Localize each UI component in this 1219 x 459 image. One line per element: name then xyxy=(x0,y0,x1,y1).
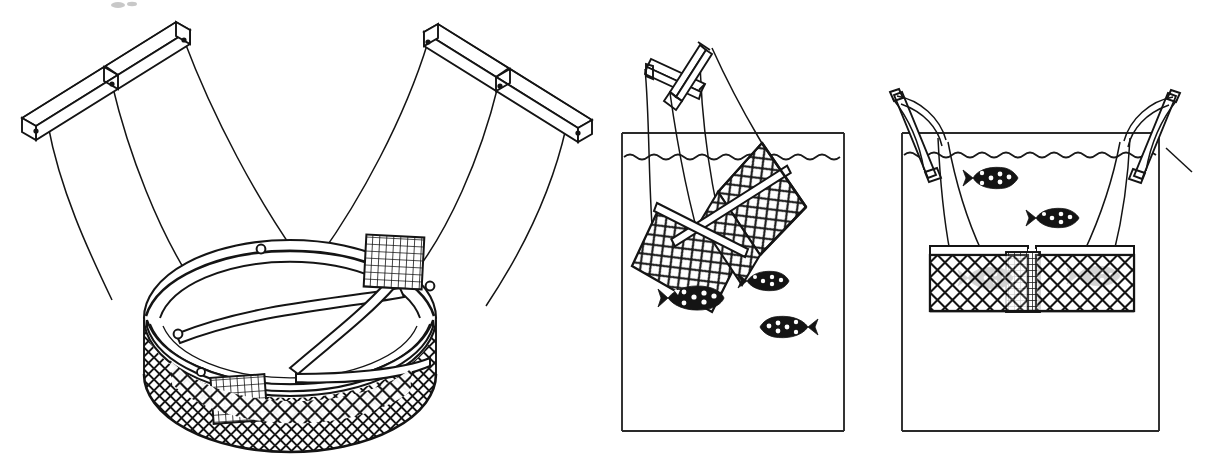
figure-root: Fish trap (collapsible mesh basket trap)… xyxy=(0,0,1219,459)
submerged-basket-rim-right xyxy=(1036,246,1134,255)
fish-trap-illustration xyxy=(0,0,1219,459)
fish xyxy=(760,316,818,337)
fish xyxy=(1026,208,1079,227)
circular-mesh-basket xyxy=(144,235,436,452)
middle-water-surface xyxy=(624,155,840,160)
panel-left-trap-detail xyxy=(22,22,592,452)
panel-middle-trap-lowering xyxy=(622,42,844,431)
fine-mesh-entrance-panel-rear xyxy=(364,235,425,290)
right-panel-right-spreader-pole xyxy=(1124,90,1192,183)
right-panel-free-fish-group xyxy=(963,167,1079,227)
submerged-mesh-basket xyxy=(930,246,1134,312)
fish xyxy=(963,167,1018,188)
right-spreader-pole xyxy=(424,24,592,142)
rigging-lines-right-panel xyxy=(938,138,1130,252)
scan-artifact-smudge xyxy=(111,2,137,8)
fish xyxy=(658,286,724,310)
panel-right-trap-submerged xyxy=(890,89,1192,431)
left-spreader-pole xyxy=(22,22,190,140)
right-panel-left-spreader-pole xyxy=(890,89,946,182)
